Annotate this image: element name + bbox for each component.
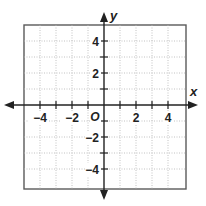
coordinate-plane: −4 −2 2 4 4 2 −2 −4 O y x [0, 0, 206, 206]
grid-frame [24, 25, 186, 189]
x-axis-left-arrow-icon [4, 101, 14, 109]
y-axis-down-arrow-icon [100, 190, 108, 200]
y-axis-up-arrow-icon [100, 12, 108, 22]
x-axis-right-arrow-icon [188, 101, 198, 109]
y-axis-label: y [109, 8, 118, 23]
x-tick-label: −2 [65, 111, 79, 125]
x-tick-label: 2 [133, 111, 140, 125]
y-tick-label: 2 [92, 67, 99, 81]
y-tick-label: 4 [92, 35, 99, 49]
x-tick-label: 4 [165, 111, 172, 125]
x-axis-label: x [189, 84, 198, 99]
origin-label: O [90, 110, 100, 124]
y-tick-label: −4 [85, 163, 99, 177]
x-tick-label: −4 [33, 111, 47, 125]
y-tick-label: −2 [85, 131, 99, 145]
